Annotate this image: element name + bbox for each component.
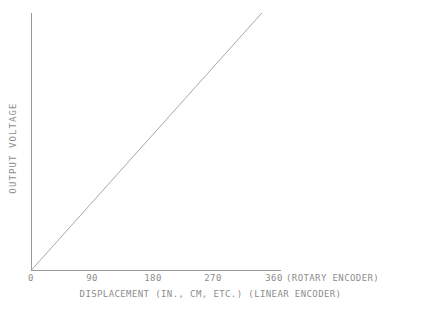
x-axis-label-main: DISPLACEMENT (IN., CM, ETC.) (80, 289, 243, 299)
x-tick-label-180: 180 (144, 273, 161, 283)
data-series-line (32, 13, 262, 270)
x-axis-label: DISPLACEMENT (IN., CM, ETC.) (LINEAR ENC… (0, 289, 421, 299)
x-tick-label-90: 90 (86, 273, 98, 283)
chart-figure: 0 90 180 270 360 (ROTARY ENCODER) DISPLA… (0, 0, 421, 320)
linear-encoder-annotation: (LINEAR ENCODER) (248, 289, 341, 299)
plot-area (0, 0, 421, 320)
x-tick-label-0: 0 (28, 273, 34, 283)
rotary-encoder-annotation: (ROTARY ENCODER) (286, 273, 379, 283)
x-tick-label-270: 270 (204, 273, 221, 283)
y-axis-label: OUTPUT VOLTAGE (8, 102, 18, 193)
x-tick-label-360: 360 (265, 273, 282, 283)
